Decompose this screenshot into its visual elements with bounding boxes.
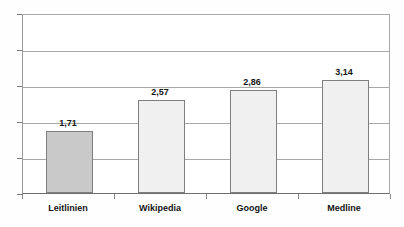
bar-leitlinien[interactable] (46, 131, 93, 193)
bar-value-label: 2,86 (222, 77, 282, 87)
bar-value-label: 3,14 (314, 67, 374, 77)
x-category-label-medline: Medline (299, 203, 389, 213)
plot-area (22, 14, 390, 194)
bar-medline[interactable] (322, 80, 369, 193)
x-category-label-google: Google (207, 203, 297, 213)
x-tick-mark (390, 194, 391, 199)
x-tick-mark (298, 194, 299, 199)
bar-value-label: 2,57 (130, 87, 190, 97)
bar-wikipedia[interactable] (138, 100, 185, 193)
x-category-label-leitlinien: Leitlinien (23, 203, 113, 213)
bar-google[interactable] (230, 90, 277, 193)
x-tick-mark (206, 194, 207, 199)
bar-value-label: 1,71 (38, 118, 98, 128)
bar-chart: 543210 LeitlinienWikipediaGoogleMedline … (0, 0, 404, 227)
x-tick-mark (22, 194, 23, 199)
gridline (23, 51, 389, 52)
x-tick-mark (114, 194, 115, 199)
x-category-label-wikipedia: Wikipedia (115, 203, 205, 213)
